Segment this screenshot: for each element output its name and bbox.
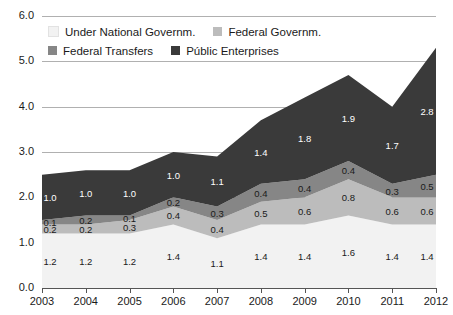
x-axis-tick — [86, 288, 87, 293]
x-axis-tick-label: 2004 — [64, 295, 108, 307]
x-axis-line — [42, 288, 436, 289]
x-axis-tick-label: 2009 — [283, 295, 327, 307]
x-axis-tick — [436, 288, 437, 293]
x-axis-tick — [173, 288, 174, 293]
x-axis-tick-label: 2008 — [239, 295, 283, 307]
x-axis-tick-label: 2007 — [195, 295, 239, 307]
plot-area — [42, 16, 436, 288]
x-axis-tick — [348, 288, 349, 293]
y-axis-tick-label: 2.0 — [0, 190, 34, 202]
x-axis-tick — [305, 288, 306, 293]
x-axis-tick-label: 2012 — [414, 295, 453, 307]
y-axis-tick-label: 3.0 — [0, 145, 34, 157]
y-axis-tick-label: 1.0 — [0, 236, 34, 248]
x-axis-tick — [217, 288, 218, 293]
x-axis-tick — [130, 288, 131, 293]
x-axis-tick-label: 2011 — [370, 295, 414, 307]
y-axis-tick-label: 6.0 — [0, 9, 34, 21]
y-axis-tick-label: 0.0 — [0, 281, 34, 293]
y-axis-tick-label: 4.0 — [0, 100, 34, 112]
x-axis-tick-label: 2010 — [326, 295, 370, 307]
x-axis-tick-label: 2006 — [151, 295, 195, 307]
x-axis-tick-label: 2005 — [108, 295, 152, 307]
x-axis-tick — [392, 288, 393, 293]
y-axis-tick-label: 5.0 — [0, 54, 34, 66]
x-axis-tick-label: 2003 — [20, 295, 64, 307]
x-axis-tick — [261, 288, 262, 293]
x-axis-tick — [42, 288, 43, 293]
